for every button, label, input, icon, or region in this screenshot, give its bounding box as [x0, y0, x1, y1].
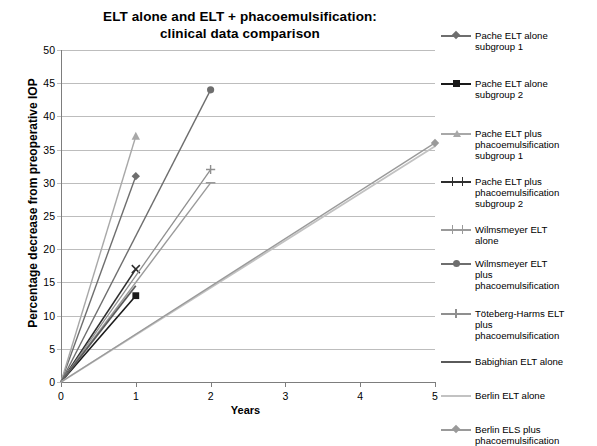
legend-key-none-icon — [441, 390, 471, 401]
legend-label: Pache ELT alonesubgroup 2 — [475, 78, 548, 100]
legend-label-line-1: Wilmsmeyer ELT — [475, 224, 547, 235]
y-tick-label: 20 — [29, 244, 55, 254]
legend-label-line-1: Babighian ELT alone — [475, 356, 563, 367]
legend-label: Pache ELT plusphacoemulsificationsubgrou… — [475, 176, 559, 210]
legend-label-line-2: plus — [475, 319, 564, 330]
legend-label: Töteberg-Harms ELTplusphacoemulsificatio… — [475, 308, 564, 342]
legend-item[interactable]: Wilmsmeyer ELTalone — [441, 224, 547, 246]
series-7 — [61, 286, 136, 382]
diamond-marker — [431, 139, 439, 147]
legend-item[interactable]: Pache ELT alonesubgroup 1 — [441, 30, 548, 52]
series-0 — [61, 172, 140, 382]
legend-label-line-1: Pache ELT plus — [475, 176, 559, 187]
legend-label: Wilmsmeyer ELTalone — [475, 224, 547, 246]
legend-label-line-1: Pache ELT alone — [475, 78, 548, 89]
y-tick-label: 0 — [29, 377, 55, 387]
legend-key-none-icon — [441, 356, 471, 367]
legend-key-diamond-icon — [441, 424, 471, 435]
series-2 — [61, 132, 140, 382]
triangle-marker — [132, 132, 140, 140]
x-tick-label: 2 — [199, 390, 223, 402]
legend-key-triangle-icon — [441, 128, 471, 139]
legend-key-cross-icon — [441, 176, 471, 187]
legend-label-line-2: plus — [475, 269, 559, 280]
x-tick-label: 4 — [348, 390, 372, 402]
y-tick-label: 5 — [29, 344, 55, 354]
legend-label-line-1: Wilmsmeyer ELT — [475, 258, 559, 269]
legend-label-line-2: subgroup 2 — [475, 89, 548, 100]
legend-label-line-1: Töteberg-Harms ELT — [475, 308, 564, 319]
series-line — [61, 176, 136, 382]
y-tick-label: 50 — [29, 45, 55, 55]
legend-label-line-2: subgroup 1 — [475, 41, 548, 52]
chart-title-line-2: clinical data comparison — [40, 25, 440, 42]
y-tick-label: 30 — [29, 178, 55, 188]
legend-label-line-1: Pache ELT alone — [475, 30, 548, 41]
legend-label: Babighian ELT alone — [475, 356, 563, 367]
diamond-marker — [132, 172, 140, 180]
y-tick-label: 40 — [29, 111, 55, 121]
chart-title: ELT alone and ELT + phacoemulsification:… — [40, 8, 440, 42]
series-9 — [61, 139, 439, 382]
x-tick-label: 3 — [273, 390, 297, 402]
legend-key-plus-icon — [441, 308, 471, 319]
legend-item[interactable]: Babighian ELT alone — [441, 356, 563, 367]
x-tick-label: 0 — [49, 390, 73, 402]
legend-label-line-2: phacoemulsification — [475, 187, 559, 198]
x-tick — [435, 382, 436, 387]
legend-item[interactable]: Pache ELT alonesubgroup 2 — [441, 78, 548, 100]
legend-label-line-2: phacoemulsification — [475, 435, 559, 446]
plus-marker — [206, 165, 215, 174]
legend-item[interactable]: Wilmsmeyer ELTplusphacoemulsification — [441, 258, 559, 292]
data-series-layer — [61, 50, 435, 383]
series-line — [61, 286, 136, 382]
y-tick-label: 45 — [29, 78, 55, 88]
legend-item[interactable]: Töteberg-Harms ELTplusphacoemulsificatio… — [441, 308, 564, 342]
legend-item[interactable]: Pache ELT plusphacoemulsificationsubgrou… — [441, 176, 559, 210]
series-6 — [61, 165, 215, 382]
x-axis-label: Years — [56, 404, 435, 416]
x-tick-label: 1 — [124, 390, 148, 402]
legend-label: Pache ELT alonesubgroup 1 — [475, 30, 548, 52]
legend-label-line-3: subgroup 2 — [475, 198, 559, 209]
legend-key-circle-icon — [441, 258, 471, 269]
legend-key-dash-icon — [441, 224, 471, 235]
legend-label: Berlin ELT alone — [475, 390, 545, 401]
chart-title-line-1: ELT alone and ELT + phacoemulsification: — [40, 8, 440, 25]
legend-label-line-1: Berlin ELS plus — [475, 424, 559, 435]
legend-label-line-2: phacoemulsification — [475, 139, 559, 150]
legend-key-diamond-icon — [441, 30, 471, 41]
square-marker — [132, 292, 139, 299]
series-5 — [61, 86, 214, 382]
circle-marker — [207, 86, 214, 93]
legend-key-square-icon — [441, 78, 471, 89]
legend-label: Wilmsmeyer ELTplusphacoemulsification — [475, 258, 559, 292]
y-tick-label: 25 — [29, 211, 55, 221]
legend-label-line-3: phacoemulsification — [475, 280, 559, 291]
legend-label-line-3: phacoemulsification — [475, 330, 564, 341]
legend-label: Pache ELT plusphacoemulsificationsubgrou… — [475, 128, 559, 162]
legend-item[interactable]: Berlin ELT alone — [441, 390, 545, 401]
legend-label-line-1: Pache ELT plus — [475, 128, 559, 139]
legend-label-line-1: Berlin ELT alone — [475, 390, 545, 401]
y-tick-label: 10 — [29, 311, 55, 321]
series-line — [61, 143, 435, 382]
legend-label-line-2: alone — [475, 235, 547, 246]
series-line — [61, 170, 211, 382]
plot-area: 05101520253035404550 012345 — [61, 50, 435, 382]
y-tick-label: 35 — [29, 145, 55, 155]
y-tick-label: 15 — [29, 277, 55, 287]
legend-item[interactable]: Pache ELT plusphacoemulsificationsubgrou… — [441, 128, 559, 162]
legend-item[interactable]: Berlin ELS plusphacoemulsification — [441, 424, 559, 446]
legend-label: Berlin ELS plusphacoemulsification — [475, 424, 559, 446]
legend-label-line-3: subgroup 1 — [475, 150, 559, 161]
